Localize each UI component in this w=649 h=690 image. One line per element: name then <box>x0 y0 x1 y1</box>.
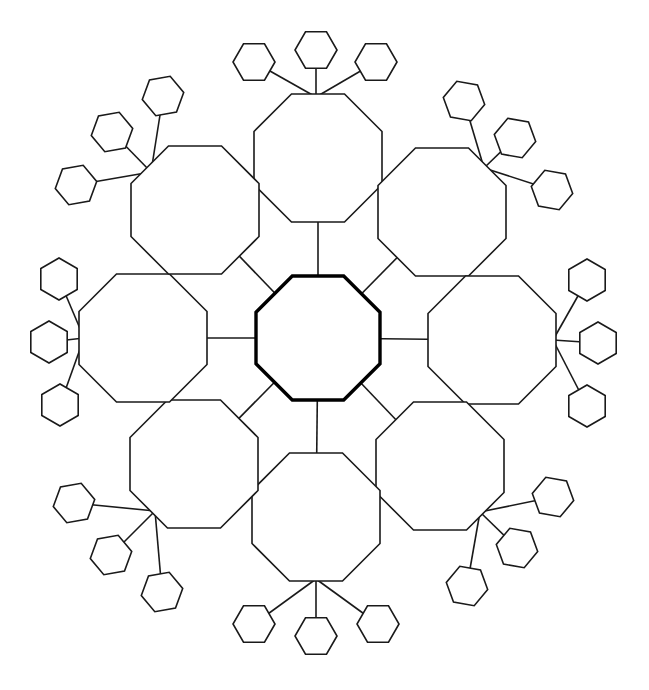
branch-octagon-top <box>254 94 382 222</box>
branch-octagon-bottom-left <box>130 400 258 528</box>
diagram-canvas <box>0 0 649 690</box>
leaf-hexagon-top-left-1 <box>142 76 183 115</box>
leaf-hexagon-top-2 <box>295 32 337 68</box>
leaf-hexagon-left-2 <box>31 321 67 363</box>
branch-octagon-top-right <box>378 148 506 276</box>
leaf-hexagon-right-2 <box>580 322 616 364</box>
leaf-hexagon-bottom-right-1 <box>532 477 573 516</box>
leaf-hexagon-bottom-left-1 <box>53 483 94 522</box>
leaf-hexagon-top-left-3 <box>55 165 96 204</box>
leaf-hexagon-top-right-3 <box>531 170 572 209</box>
branch-octagon-bottom <box>252 453 380 581</box>
leaf-hexagon-bottom-3 <box>357 606 399 642</box>
leaf-hexagon-top-3 <box>355 44 397 80</box>
leaf-hexagon-right-1 <box>569 259 605 301</box>
leaf-hexagon-bottom-left-3 <box>141 572 182 611</box>
leaf-hexagon-left-1 <box>41 258 77 300</box>
branch-octagon-bottom-right <box>376 402 504 530</box>
graphic-organizer-diagram <box>0 0 649 690</box>
leaf-hexagon-bottom-2 <box>295 618 337 654</box>
branch-octagon-top-left <box>131 146 259 274</box>
leaf-hexagon-bottom-right-3 <box>446 566 487 605</box>
leaf-hexagon-top-right-2 <box>494 118 535 157</box>
leaf-hexagon-right-3 <box>569 385 605 427</box>
leaf-hexagon-top-1 <box>233 44 275 80</box>
center-octagon <box>256 276 380 400</box>
center-octagon-group <box>256 276 380 400</box>
leaf-hexagon-top-right-1 <box>443 81 484 120</box>
branch-octagon-right <box>428 276 556 404</box>
leaf-hexagon-top-left-2 <box>91 112 132 151</box>
branch-octagon-left <box>79 274 207 402</box>
leaf-hexagon-bottom-1 <box>233 606 275 642</box>
leaf-hexagon-left-3 <box>42 384 78 426</box>
